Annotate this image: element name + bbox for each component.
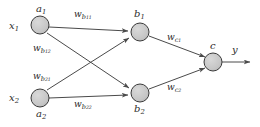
- node-label-b1: b1: [134, 9, 145, 20]
- weight-label-w-b21: wb21: [33, 72, 51, 83]
- input-label-x2: x2: [9, 93, 19, 104]
- node-label-b2: b2: [134, 104, 145, 115]
- edge-x2-to-b2: [49, 95, 128, 98]
- edge-x1-to-b1: [49, 27, 128, 31]
- output-label-y: y: [232, 45, 238, 55]
- weight-label-w-c2: wc2: [167, 83, 181, 94]
- edge-x1-to-b2: [47, 33, 129, 88]
- node-label-c: c: [210, 41, 216, 51]
- weight-label-w-c1: wc1: [167, 33, 181, 44]
- node-c: [204, 53, 222, 71]
- node-a1: [31, 16, 49, 34]
- node-b2: [131, 84, 149, 102]
- edge-x2-to-b1: [47, 38, 129, 90]
- input-label-x1: x1: [9, 21, 19, 32]
- neural-network-diagram: x1 a1 x2 a2 b1 b2 c y wb11 wb12 wb21 wb2…: [0, 0, 260, 127]
- weight-label-w-b12: wb12: [33, 44, 51, 55]
- node-label-a1: a1: [36, 4, 46, 15]
- node-a2: [31, 89, 49, 107]
- weight-label-w-b11: wb11: [74, 10, 92, 21]
- node-b1: [131, 23, 149, 41]
- node-label-a2: a2: [36, 109, 46, 120]
- weight-label-w-b22: wb22: [74, 100, 92, 111]
